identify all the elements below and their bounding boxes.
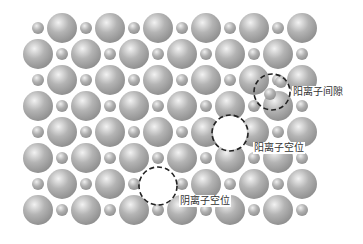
large-ion (47, 65, 77, 95)
large-ion (71, 195, 101, 225)
large-ion (23, 143, 53, 173)
small-ion (224, 178, 236, 190)
small-ion (80, 126, 92, 138)
small-ion (296, 48, 308, 60)
large-ion (143, 65, 173, 95)
small-ion (128, 22, 140, 34)
small-ion (176, 74, 188, 86)
small-ion (272, 126, 284, 138)
large-ion (71, 39, 101, 69)
small-ion (296, 100, 308, 112)
large-ion (167, 91, 197, 121)
large-ion (95, 169, 125, 199)
large-ion (143, 117, 173, 147)
small-ion (176, 22, 188, 34)
small-ion (56, 152, 68, 164)
small-ion (80, 178, 92, 190)
large-ion (47, 117, 77, 147)
small-ion (128, 178, 140, 190)
large-ion (287, 169, 317, 199)
small-ion (80, 74, 92, 86)
small-ion (32, 178, 44, 190)
small-ion (56, 48, 68, 60)
large-ion (215, 39, 245, 69)
large-ion (263, 39, 293, 69)
small-ion (56, 100, 68, 112)
small-ion (32, 126, 44, 138)
large-ion (23, 91, 53, 121)
large-ion (47, 13, 77, 43)
large-ion (191, 65, 221, 95)
interstitial-ion (275, 76, 287, 88)
small-ion (176, 178, 188, 190)
large-ion (71, 143, 101, 173)
large-ion (119, 91, 149, 121)
small-ion (80, 22, 92, 34)
small-ion (224, 22, 236, 34)
large-ion (23, 195, 53, 225)
small-ion (104, 100, 116, 112)
cation-interstitial-label: 阳离子间隙 (292, 86, 344, 98)
small-ion (152, 48, 164, 60)
small-ion (56, 204, 68, 216)
large-ion (239, 13, 269, 43)
large-ion (23, 39, 53, 69)
interstitial-ion (264, 88, 276, 100)
small-ion (152, 100, 164, 112)
cation-vacancy-label: 阳离子空位 (253, 142, 305, 154)
large-ion (191, 13, 221, 43)
anion-vacancy-void (140, 168, 176, 204)
small-ion (200, 152, 212, 164)
large-ion (47, 169, 77, 199)
small-ion (224, 74, 236, 86)
small-ion (200, 100, 212, 112)
large-ion (167, 39, 197, 69)
large-ion (167, 143, 197, 173)
small-ion (272, 22, 284, 34)
small-ion (248, 48, 260, 60)
large-ion (143, 13, 173, 43)
large-ion (239, 169, 269, 199)
large-ion (95, 117, 125, 147)
small-ion (128, 74, 140, 86)
small-ion (104, 204, 116, 216)
ion-layer (23, 13, 317, 225)
large-ion (95, 13, 125, 43)
small-ion (128, 126, 140, 138)
cation-vacancy-void (213, 116, 247, 150)
crystal-lattice (0, 0, 363, 244)
small-ion (296, 204, 308, 216)
large-ion (119, 39, 149, 69)
large-ion (263, 195, 293, 225)
small-ion (32, 22, 44, 34)
small-ion (248, 100, 260, 112)
large-ion (71, 91, 101, 121)
anion-vacancy-label: 阴离子空位 (179, 195, 231, 207)
small-ion (272, 178, 284, 190)
small-ion (248, 204, 260, 216)
small-ion (176, 126, 188, 138)
small-ion (152, 152, 164, 164)
small-ion (152, 204, 164, 216)
large-ion (95, 65, 125, 95)
small-ion (104, 48, 116, 60)
large-ion (119, 143, 149, 173)
small-ion (32, 74, 44, 86)
large-ion (287, 13, 317, 43)
small-ion (200, 48, 212, 60)
small-ion (104, 152, 116, 164)
